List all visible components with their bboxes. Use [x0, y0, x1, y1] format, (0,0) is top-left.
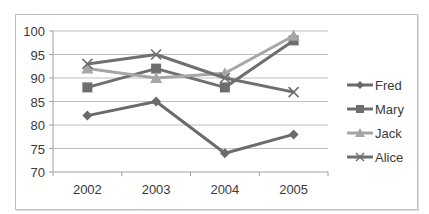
legend: FredMaryJackAlice — [347, 78, 404, 165]
x-tick-label: 2004 — [210, 182, 239, 197]
legend-label: Alice — [375, 150, 403, 165]
legend-item-fred: Fred — [347, 78, 402, 93]
legend-label: Mary — [375, 102, 404, 117]
legend-item-mary: Mary — [347, 102, 404, 117]
legend-label: Jack — [375, 126, 402, 141]
diamond-marker-icon — [289, 129, 299, 139]
legend-label: Fred — [375, 78, 402, 93]
y-tick-label: 80 — [31, 118, 45, 133]
legend-item-alice: Alice — [347, 150, 403, 165]
x-tick-label: 2005 — [279, 182, 308, 197]
legend-item-jack: Jack — [347, 126, 402, 141]
diamond-marker-icon — [356, 81, 364, 89]
y-tick-label: 100 — [23, 24, 45, 39]
square-marker-icon — [356, 105, 364, 113]
y-tick-label: 70 — [31, 165, 45, 180]
x-tick-label: 2002 — [73, 182, 102, 197]
series-mary — [82, 35, 298, 92]
y-axis-ticks: 707580859095100 — [23, 24, 53, 180]
square-marker-icon — [220, 82, 230, 92]
y-tick-label: 75 — [31, 142, 45, 157]
x-axis-ticks: 2002200320042005 — [53, 172, 328, 197]
x-tick-label: 2003 — [142, 182, 171, 197]
y-tick-label: 95 — [31, 48, 45, 63]
square-marker-icon — [82, 82, 92, 92]
series-jack — [81, 30, 299, 83]
series-line — [87, 102, 293, 154]
line-chart: 707580859095100 2002200320042005 FredMar… — [0, 0, 429, 214]
series-line — [87, 36, 293, 78]
series-lines — [81, 30, 299, 159]
y-tick-label: 90 — [31, 71, 45, 86]
series-line — [87, 40, 293, 87]
y-tick-label: 85 — [31, 95, 45, 110]
diamond-marker-icon — [82, 111, 92, 121]
